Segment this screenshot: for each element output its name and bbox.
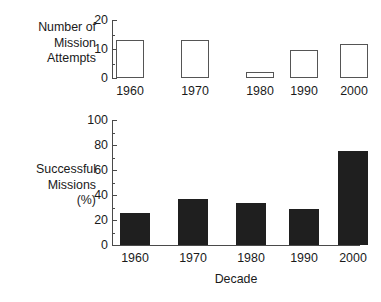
y-tick-label-60: 60 bbox=[72, 164, 108, 176]
y-tick-label-20: 20 bbox=[78, 14, 108, 26]
x-axis-line-bottom bbox=[112, 245, 360, 246]
y-tick-label-100: 100 bbox=[72, 114, 108, 126]
y-tick-label-0: 0 bbox=[72, 239, 108, 251]
y-tick-label-80: 80 bbox=[72, 139, 108, 151]
x-tick-label-bottom-1980: 1980 bbox=[221, 252, 281, 264]
plot-area-mission-attempts: 20 10 0 1960 1970 1980 1990 2000 bbox=[0, 0, 381, 108]
y-tick-minor-90 bbox=[112, 133, 115, 134]
y-tick-major-0 bbox=[112, 245, 117, 246]
y-tick-label-10: 10 bbox=[78, 43, 108, 55]
x-tick-label-top-1960: 1960 bbox=[100, 85, 160, 97]
bar-successful-missions-1960 bbox=[120, 213, 150, 246]
y-tick-minor-30 bbox=[112, 208, 115, 209]
y-tick-major-40 bbox=[112, 195, 117, 196]
y-tick-minor-70 bbox=[112, 158, 115, 159]
y-tick-major-20 bbox=[112, 220, 117, 221]
y-tick-label-40: 40 bbox=[72, 189, 108, 201]
y-tick-major-60 bbox=[112, 170, 117, 171]
y-tick-major-100 bbox=[112, 120, 117, 121]
bar-mission-attempts-1970 bbox=[181, 40, 209, 78]
bar-successful-missions-2000 bbox=[338, 151, 368, 245]
bar-mission-attempts-2000 bbox=[340, 44, 368, 78]
bar-successful-missions-1980 bbox=[236, 203, 266, 246]
bar-mission-attempts-1980 bbox=[246, 72, 274, 78]
x-tick-label-top-2000: 2000 bbox=[324, 85, 381, 97]
x-tick-label-bottom-1960: 1960 bbox=[105, 252, 165, 264]
bar-mission-attempts-1990 bbox=[290, 50, 318, 78]
panel-mission-attempts: Number ofMissionAttempts 20 10 0 1960 bbox=[0, 0, 381, 108]
y-tick-minor-10 bbox=[112, 233, 115, 234]
x-tick-label-bottom-1970: 1970 bbox=[163, 252, 223, 264]
y-tick-major-0 bbox=[112, 78, 117, 79]
x-tick-label-top-1970: 1970 bbox=[165, 85, 225, 97]
y-tick-label-20: 20 bbox=[72, 214, 108, 226]
bar-mission-attempts-1960 bbox=[116, 40, 144, 78]
bar-successful-missions-1970 bbox=[178, 199, 208, 245]
x-tick-label-bottom-2000: 2000 bbox=[323, 252, 381, 264]
x-axis-title-decade: Decade bbox=[146, 273, 326, 285]
y-tick-minor-15 bbox=[112, 35, 115, 36]
y-tick-minor-5 bbox=[112, 64, 115, 65]
y-tick-label-0: 0 bbox=[78, 72, 108, 84]
y-tick-major-80 bbox=[112, 145, 117, 146]
panel-successful-missions: SuccessfulMissions(%) 100 80 60 40 bbox=[0, 108, 381, 302]
bar-successful-missions-1990 bbox=[289, 209, 319, 245]
two-panel-bar-figure: Number ofMissionAttempts 20 10 0 1960 bbox=[0, 0, 381, 302]
y-tick-minor-50 bbox=[112, 183, 115, 184]
plot-area-successful-missions: 100 80 60 40 20 0 1960 1970 1980 1990 20… bbox=[0, 108, 381, 302]
y-tick-major-20 bbox=[112, 20, 117, 21]
